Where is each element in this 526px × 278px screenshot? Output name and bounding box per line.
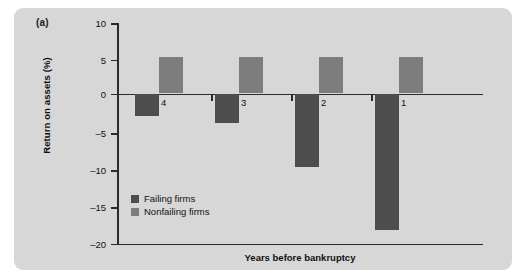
x-axis-line [117, 244, 483, 246]
y-axis-line [117, 23, 119, 244]
y-tick-label: –10 [66, 165, 106, 176]
x-tick-mark [371, 95, 373, 101]
bar-nonfailing-3 [239, 57, 263, 94]
y-tick-mark [111, 133, 117, 135]
y-tick-mark [111, 170, 117, 172]
y-tick-mark [111, 244, 117, 246]
y-tick-label: –20 [66, 239, 106, 250]
plot-area: 10 5 0 –5 –10 –15 –20 4 3 2 1 [0, 0, 526, 278]
y-tick-label: 10 [66, 18, 106, 29]
y-tick-label: 0 [66, 89, 106, 100]
legend-item-failing: Failing firms [131, 192, 209, 205]
y-tick-mark [111, 207, 117, 209]
legend-label: Failing firms [144, 193, 195, 204]
x-tick-mark [211, 95, 213, 101]
bar-nonfailing-4 [159, 57, 183, 94]
bar-failing-1 [375, 94, 399, 230]
y-tick-label: –5 [66, 128, 106, 139]
bar-failing-2 [295, 94, 319, 168]
y-tick-label: 5 [66, 55, 106, 66]
bar-failing-3 [215, 94, 239, 124]
legend-item-nonfailing: Nonfailing firms [131, 205, 209, 218]
x-tick-label: 2 [321, 97, 326, 108]
legend-label: Nonfailing firms [144, 206, 209, 217]
y-tick-label: –15 [66, 202, 106, 213]
legend-swatch-icon [131, 208, 139, 216]
x-axis-title: Years before bankruptcy [117, 252, 483, 263]
x-tick-label: 4 [161, 97, 166, 108]
legend: Failing firms Nonfailing firms [131, 192, 209, 218]
y-tick-mark [111, 94, 117, 96]
x-tick-mark [291, 95, 293, 101]
figure-root: (a) Return on assets (%) 10 5 0 –5 –10 –… [0, 0, 526, 278]
x-tick-label: 3 [241, 97, 246, 108]
legend-swatch-icon [131, 195, 139, 203]
bar-failing-4 [135, 94, 159, 116]
bar-nonfailing-2 [319, 57, 343, 94]
y-tick-mark [111, 23, 117, 25]
y-tick-mark [111, 60, 117, 62]
bar-nonfailing-1 [399, 57, 423, 94]
x-tick-label: 1 [401, 97, 406, 108]
